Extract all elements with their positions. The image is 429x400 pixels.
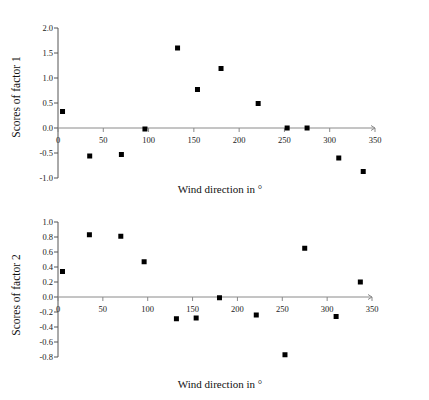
y-tick-label: 0.8 xyxy=(42,232,53,242)
x-tick-label: 200 xyxy=(231,304,244,314)
x-tick-label: 300 xyxy=(323,135,336,145)
data-point-marker xyxy=(361,169,366,174)
data-point-marker xyxy=(118,234,123,239)
data-point-marker xyxy=(217,295,222,300)
x-axis-title-2: Wind direction in ° xyxy=(178,378,262,390)
data-point-marker xyxy=(194,316,199,321)
data-point-marker xyxy=(219,66,224,71)
x-axis-title-1: Wind direction in ° xyxy=(178,183,262,195)
data-point-marker xyxy=(174,316,179,321)
x-tick-label: 0 xyxy=(56,304,60,314)
y-tick-label: -0.6 xyxy=(40,337,53,347)
x-tick-label: 100 xyxy=(141,304,154,314)
y-tick-label: -1.0 xyxy=(40,173,53,183)
x-tick-label: 50 xyxy=(99,304,108,314)
y-tick-label: 0.0 xyxy=(42,292,53,302)
y-tick-label: -0.2 xyxy=(40,307,53,317)
x-tick-label: 350 xyxy=(369,135,382,145)
data-point-marker xyxy=(302,246,307,251)
data-point-marker xyxy=(336,156,341,161)
y-tick-label: -0.5 xyxy=(40,148,53,158)
y-tick-label: 0.2 xyxy=(42,277,53,287)
x-axis-group-1: 050100150200250300350 xyxy=(56,126,382,146)
data-point-marker xyxy=(87,154,92,159)
plot-canvas-factor-2: -0.8-0.6-0.4-0.20.00.20.40.60.81.0 05010… xyxy=(0,200,429,400)
x-tick-label: 250 xyxy=(276,304,289,314)
y-tick-label: 1.5 xyxy=(42,48,53,58)
y-tick-label: 0.5 xyxy=(42,98,53,108)
data-markers-group-2 xyxy=(60,232,363,357)
y-axis-title-1: Scores of factor 1 xyxy=(10,56,22,138)
x-tick-label: 150 xyxy=(186,304,199,314)
data-point-marker xyxy=(305,126,310,131)
x-tick-label: 100 xyxy=(142,135,155,145)
scatter-plot-factor-1: -1.0-0.50.00.51.01.52.0 0501001502002503… xyxy=(0,0,429,200)
data-point-marker xyxy=(87,232,92,237)
y-tick-label: 1.0 xyxy=(42,217,53,227)
data-point-marker xyxy=(175,46,180,51)
y-tick-label: 0.0 xyxy=(42,123,53,133)
data-point-marker xyxy=(142,127,147,132)
data-point-marker xyxy=(142,259,147,264)
y-axis-group-2: -0.8-0.6-0.4-0.20.00.20.40.60.81.0 xyxy=(40,217,58,362)
data-point-marker xyxy=(285,126,290,131)
data-markers-group-1 xyxy=(60,46,366,175)
y-tick-label: 0.6 xyxy=(42,247,53,257)
x-tick-label: 50 xyxy=(99,135,108,145)
data-point-marker xyxy=(60,269,65,274)
data-point-marker xyxy=(256,101,261,106)
x-tick-label: 200 xyxy=(233,135,246,145)
data-point-marker xyxy=(195,87,200,92)
data-point-marker xyxy=(358,280,363,285)
y-tick-label: -0.4 xyxy=(40,322,54,332)
data-point-marker xyxy=(60,109,65,114)
plot-canvas-factor-1: -1.0-0.50.00.51.01.52.0 0501001502002503… xyxy=(0,0,429,200)
y-axis-group-1: -1.0-0.50.00.51.01.52.0 xyxy=(40,23,58,183)
y-axis-title-2: Scores of factor 2 xyxy=(10,254,22,336)
x-tick-label: 0 xyxy=(56,135,60,145)
y-tick-label: -0.8 xyxy=(40,352,53,362)
y-tick-label: 1.0 xyxy=(42,73,53,83)
data-point-marker xyxy=(282,352,287,357)
data-point-marker xyxy=(334,314,339,319)
x-tick-label: 150 xyxy=(187,135,200,145)
x-tick-label: 350 xyxy=(366,304,379,314)
y-tick-label: 2.0 xyxy=(42,23,53,33)
x-tick-label: 300 xyxy=(321,304,334,314)
data-point-marker xyxy=(119,152,124,157)
scatter-plot-factor-2: -0.8-0.6-0.4-0.20.00.20.40.60.81.0 05010… xyxy=(0,200,429,400)
data-point-marker xyxy=(254,313,259,318)
x-tick-label: 250 xyxy=(278,135,291,145)
y-tick-label: 0.4 xyxy=(42,262,53,272)
